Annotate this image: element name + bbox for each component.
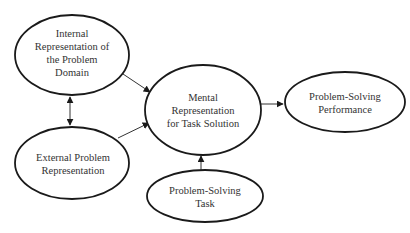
node-internal-representation: Internal Representation of the Problem D…: [15, 15, 129, 95]
node-label: Internal: [56, 28, 89, 39]
node-label: Mental: [188, 92, 218, 103]
edge-internal-mental: [123, 74, 150, 92]
node-label: Domain: [55, 67, 90, 78]
node-label: Performance: [318, 104, 372, 115]
edge-external-mental: [118, 123, 149, 138]
node-label: for Task Solution: [167, 118, 240, 129]
node-external-representation: External Problem Representation: [15, 127, 129, 199]
node-label: External Problem: [36, 152, 110, 163]
node-label: Task: [195, 198, 215, 209]
node-label: Problem-Solving: [169, 185, 242, 196]
diagram-canvas: Internal Representation of the Problem D…: [0, 0, 410, 233]
node-mental-representation: Mental Representation for Task Solution: [145, 65, 261, 155]
node-problem-solving-task: Problem-Solving Task: [147, 170, 263, 222]
node-problem-solving-performance: Problem-Solving Performance: [285, 72, 405, 132]
node-label: Problem-Solving: [309, 91, 382, 102]
node-label: Representation: [172, 105, 236, 116]
node-label: Representation of: [35, 41, 110, 52]
node-label: Representation: [42, 165, 106, 176]
node-label: the Problem: [46, 54, 97, 65]
